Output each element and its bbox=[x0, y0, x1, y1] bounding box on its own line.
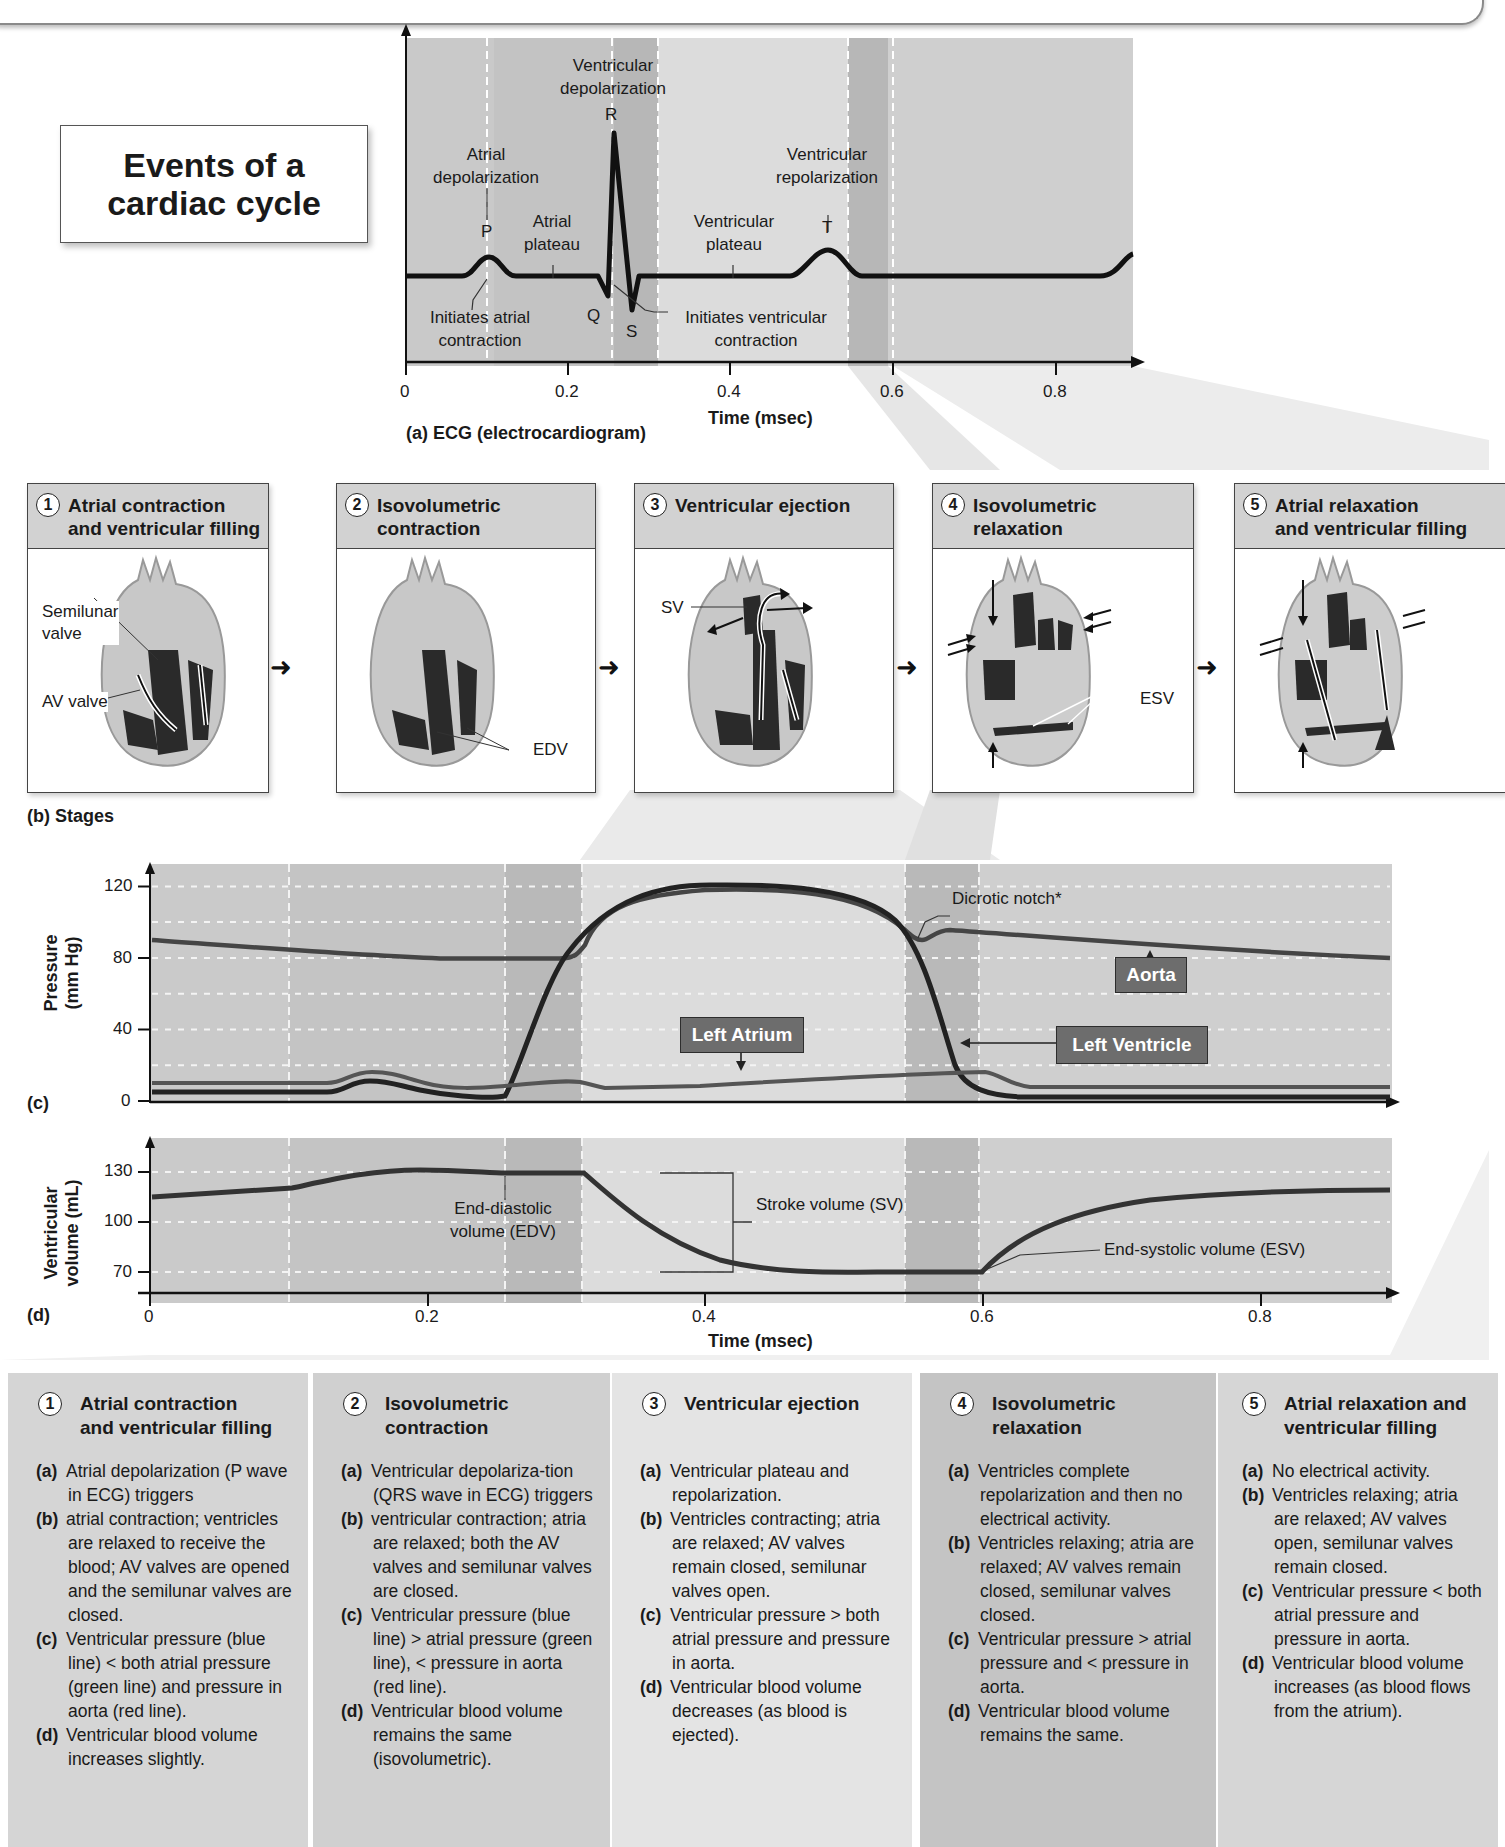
panel-1-item-d: (d)Ventricular blood volume increases sl… bbox=[36, 1723, 296, 1771]
label-T: T bbox=[822, 218, 832, 238]
panel-5-item-d: (d)Ventricular blood volume increases (a… bbox=[1242, 1651, 1486, 1723]
heart-illustration-icon bbox=[933, 550, 1193, 790]
panel-4-title: Isovolumetric relaxation bbox=[992, 1393, 1116, 1438]
ecg-caption: (a) ECG (electrocardiogram) bbox=[406, 423, 646, 444]
panel-1-item-c: (c)Ventricular pressure (blue line) < bo… bbox=[36, 1627, 296, 1723]
panel-5-item-b: (b)Ventricles relaxing; atria are relaxe… bbox=[1242, 1483, 1486, 1579]
arrow-right-icon: ➜ bbox=[598, 652, 620, 683]
label-esv: ESV bbox=[1140, 689, 1174, 709]
ecg-xtick-3: 0.6 bbox=[880, 382, 904, 402]
panel-3-item-d: (d)Ventricular blood volume decreases (a… bbox=[640, 1675, 900, 1747]
label-atrial-depolarization: Atrial depolarization bbox=[418, 143, 554, 189]
pressure-volume-charts bbox=[0, 850, 1489, 1360]
panel-2-item-d: (d)Ventricular blood volume remains the … bbox=[341, 1699, 598, 1771]
description-panel-5: 5Atrial relaxation and ventricular filli… bbox=[1218, 1373, 1498, 1847]
stage-4-number: 4 bbox=[941, 493, 965, 517]
stage-3-title: Ventricular ejection bbox=[675, 494, 850, 517]
label-esv-volume: End-systolic volume (ESV) bbox=[1104, 1240, 1305, 1260]
panel-5-number: 5 bbox=[1242, 1392, 1266, 1416]
volume-panel-label: (d) bbox=[27, 1305, 50, 1326]
label-ventricular-repolarization: Ventricular repolarization bbox=[752, 143, 902, 189]
panel-4-item-d: (d)Ventricular blood volume remains the … bbox=[948, 1699, 1204, 1747]
panel-2-item-b: (b)ventricular contraction; atria are re… bbox=[341, 1507, 598, 1603]
panel-3-title: Ventricular ejection bbox=[684, 1393, 859, 1414]
panel-2-title: Isovolumetric contraction bbox=[385, 1393, 509, 1438]
panel-3-number: 3 bbox=[642, 1392, 666, 1416]
volume-ytick-100: 100 bbox=[104, 1211, 132, 1231]
panel-2-item-a: (a)Ventricular depolariza-tion (QRS wave… bbox=[341, 1459, 598, 1507]
volume-xtick-2: 0.4 bbox=[692, 1307, 716, 1327]
label-R: R bbox=[605, 105, 617, 125]
label-initiates-ventricular: Initiates ventricular contraction bbox=[668, 306, 844, 352]
label-Q: Q bbox=[587, 306, 600, 326]
panel-5-item-a: (a)No electrical activity. bbox=[1242, 1459, 1486, 1483]
label-dicrotic-notch: Dicrotic notch* bbox=[952, 889, 1062, 909]
label-semilunar-valve: Semilunar valve bbox=[42, 601, 119, 645]
ecg-xlabel: Time (msec) bbox=[708, 408, 813, 429]
panel-1-number: 1 bbox=[38, 1392, 62, 1416]
label-edv-volume: End-diastolic volume (EDV) bbox=[438, 1197, 568, 1243]
label-atrial-plateau: Atrial plateau bbox=[512, 210, 592, 256]
stage-2-title: Isovolumetric contraction bbox=[377, 494, 501, 540]
panel-2-item-c: (c)Ventricular pressure (blue line) > at… bbox=[341, 1603, 598, 1699]
volume-xlabel: Time (msec) bbox=[708, 1331, 813, 1352]
stage-1: 1Atrial contraction and ventricular fill… bbox=[27, 483, 269, 793]
label-ventricular-plateau: Ventricular plateau bbox=[681, 210, 787, 256]
panel-5-title: Atrial relaxation and ventricular fillin… bbox=[1284, 1393, 1467, 1438]
stage-5-number: 5 bbox=[1243, 493, 1267, 517]
description-panel-3: 3Ventricular ejection (a)Ventricular pla… bbox=[612, 1373, 912, 1847]
panel-4-item-a: (a)Ventricles complete repolarization an… bbox=[948, 1459, 1204, 1531]
stage-4: 4Isovolumetric relaxation ESV bbox=[932, 483, 1194, 793]
volume-xtick-3: 0.6 bbox=[970, 1307, 994, 1327]
legend-left-ventricle: Left Ventricle bbox=[1056, 1026, 1208, 1064]
heart-illustration-icon bbox=[1235, 550, 1495, 790]
volume-ytick-130: 130 bbox=[104, 1161, 132, 1181]
ecg-xtick-4: 0.8 bbox=[1043, 382, 1067, 402]
pressure-ytick-80: 80 bbox=[113, 948, 132, 968]
pressure-ytick-40: 40 bbox=[113, 1019, 132, 1039]
arrow-right-icon: ➜ bbox=[1196, 652, 1218, 683]
stage-2: 2Isovolumetric contraction EDV bbox=[336, 483, 596, 793]
legend-left-atrium: Left Atrium bbox=[680, 1017, 804, 1053]
panel-5-item-c: (c)Ventricular pressure < both atrial pr… bbox=[1242, 1579, 1486, 1651]
ecg-xtick-0: 0 bbox=[400, 382, 409, 402]
description-panel-4: 4Isovolumetric relaxation (a)Ventricles … bbox=[920, 1373, 1216, 1847]
panel-3-item-a: (a)Ventricular plateau and repolarizatio… bbox=[640, 1459, 900, 1507]
panel-1-item-b: (b)atrial contraction; ventricles are re… bbox=[36, 1507, 296, 1627]
volume-ytick-70: 70 bbox=[113, 1262, 132, 1282]
stage-1-title: Atrial contraction and ventricular filli… bbox=[68, 494, 260, 540]
panel-4-item-b: (b)Ventricles relaxing; atria are relaxe… bbox=[948, 1531, 1204, 1627]
heart-illustration-icon bbox=[635, 550, 893, 790]
stage-2-number: 2 bbox=[345, 493, 369, 517]
arrow-right-icon: ➜ bbox=[896, 652, 918, 683]
label-P: P bbox=[481, 222, 492, 242]
panel-4-item-c: (c)Ventricular pressure > atrial pressur… bbox=[948, 1627, 1204, 1699]
panel-1-item-a: (a)Atrial depolarization (P wave in ECG)… bbox=[36, 1459, 296, 1507]
stages-caption: (b) Stages bbox=[27, 806, 114, 827]
stage-3: 3Ventricular ejection SV bbox=[634, 483, 894, 793]
pressure-ytick-0: 0 bbox=[121, 1091, 130, 1111]
panel-3-item-c: (c)Ventricular pressure > both atrial pr… bbox=[640, 1603, 900, 1675]
stage-1-number: 1 bbox=[36, 493, 60, 517]
description-panel-1: 1Atrial contraction and ventricular fill… bbox=[8, 1373, 308, 1847]
stage-5-title: Atrial relaxation and ventricular fillin… bbox=[1275, 494, 1467, 540]
panel-1-title: Atrial contraction and ventricular filli… bbox=[80, 1393, 272, 1438]
pressure-panel-label: (c) bbox=[27, 1093, 49, 1114]
label-ventricular-depolarization: Ventricular depolarization bbox=[545, 54, 681, 100]
label-stroke-volume: Stroke volume (SV) bbox=[756, 1195, 903, 1215]
stage-4-title: Isovolumetric relaxation bbox=[973, 494, 1097, 540]
label-sv: SV bbox=[661, 598, 684, 618]
legend-aorta: Aorta bbox=[1115, 957, 1187, 993]
arrow-right-icon: ➜ bbox=[270, 652, 292, 683]
pressure-ytick-120: 120 bbox=[104, 876, 132, 896]
volume-ylabel: Ventricular volume (mL) bbox=[41, 1153, 83, 1313]
volume-xtick-0: 0 bbox=[144, 1307, 153, 1327]
stage-5: 5Atrial relaxation and ventricular filli… bbox=[1234, 483, 1505, 793]
label-initiates-atrial: Initiates atrial contraction bbox=[412, 306, 548, 352]
label-av-valve: AV valve bbox=[42, 692, 108, 712]
panel-4-number: 4 bbox=[950, 1392, 974, 1416]
label-edv: EDV bbox=[533, 740, 568, 760]
ecg-xtick-1: 0.2 bbox=[555, 382, 579, 402]
volume-xtick-4: 0.8 bbox=[1248, 1307, 1272, 1327]
volume-xtick-1: 0.2 bbox=[415, 1307, 439, 1327]
